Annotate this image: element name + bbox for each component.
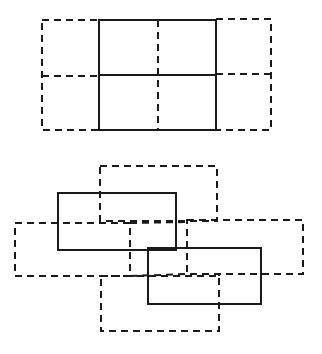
diagram-canvas <box>0 0 322 354</box>
dashed-line <box>130 222 187 223</box>
figure-top-grid <box>42 19 271 130</box>
figure-bottom-overlap <box>15 166 303 331</box>
diagram-svg <box>0 0 322 354</box>
